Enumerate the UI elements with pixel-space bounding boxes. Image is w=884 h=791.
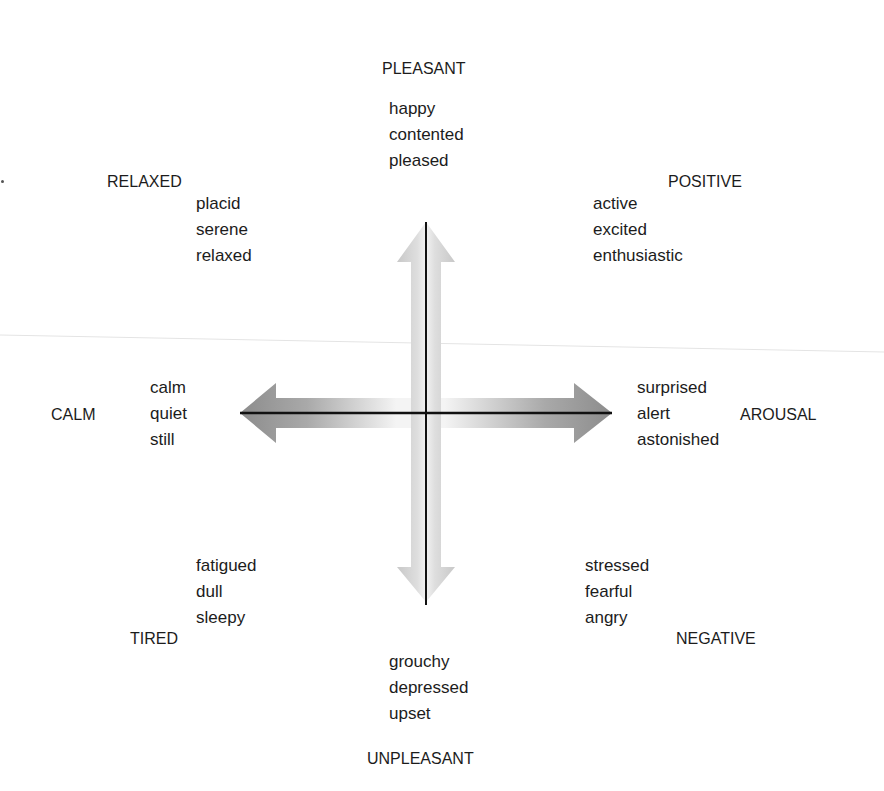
word: relaxed	[196, 243, 252, 269]
label-tired: TIRED	[130, 629, 178, 648]
label-pleasant: PLEASANT	[382, 59, 466, 78]
label-relaxed: RELAXED	[107, 172, 182, 191]
word: quiet	[150, 401, 187, 427]
word: excited	[593, 217, 683, 243]
word: grouchy	[389, 649, 468, 675]
label-unpleasant: UNPLEASANT	[367, 749, 474, 768]
word-group-tired: fatigued dull sleepy	[196, 553, 257, 631]
word-group-positive: active excited enthusiastic	[593, 191, 683, 269]
word: stressed	[585, 553, 649, 579]
word: dull	[196, 579, 257, 605]
word: alert	[637, 401, 719, 427]
word: still	[150, 427, 187, 453]
word: angry	[585, 605, 649, 631]
word-group-pleasant: happy contented pleased	[389, 96, 464, 174]
word: upset	[389, 701, 468, 727]
word-group-negative: stressed fearful angry	[585, 553, 649, 631]
label-arousal: AROUSAL	[740, 405, 816, 424]
word-group-relaxed: placid serene relaxed	[196, 191, 252, 269]
word: placid	[196, 191, 252, 217]
scan-artifact-line	[0, 335, 884, 352]
word: serene	[196, 217, 252, 243]
word-group-calm: calm quiet still	[150, 375, 187, 453]
word-group-unpleasant: grouchy depressed upset	[389, 649, 468, 727]
word: surprised	[637, 375, 719, 401]
word: sleepy	[196, 605, 257, 631]
word: astonished	[637, 427, 719, 453]
word: active	[593, 191, 683, 217]
word: depressed	[389, 675, 468, 701]
label-positive: POSITIVE	[668, 172, 742, 191]
stray-dot	[1, 180, 4, 183]
affect-circumplex-diagram: PLEASANT RELAXED POSITIVE CALM AROUSAL T…	[0, 0, 884, 791]
word: fearful	[585, 579, 649, 605]
word: pleased	[389, 148, 464, 174]
word: contented	[389, 122, 464, 148]
word: calm	[150, 375, 187, 401]
word: happy	[389, 96, 464, 122]
label-calm: CALM	[51, 405, 95, 424]
word: fatigued	[196, 553, 257, 579]
word: enthusiastic	[593, 243, 683, 269]
label-negative: NEGATIVE	[676, 629, 756, 648]
word-group-arousal: surprised alert astonished	[637, 375, 719, 453]
